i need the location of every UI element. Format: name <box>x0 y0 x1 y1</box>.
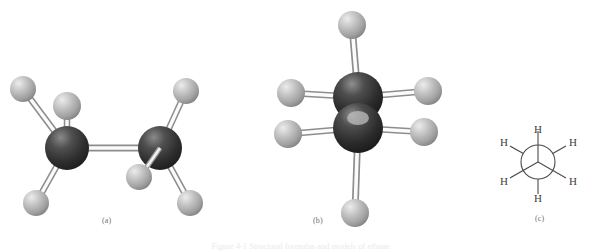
atom-hydrogen <box>274 120 302 148</box>
panel-c-svg: H H H H H H <box>488 118 601 223</box>
newman-h-lower-right: H <box>569 175 577 187</box>
newman-h-lower-left: H <box>500 175 508 187</box>
atom-hydrogen <box>53 92 81 120</box>
panel-b-svg <box>255 0 475 235</box>
carbon-overlap-highlight <box>347 111 369 125</box>
rear-bond-upper-left <box>510 146 523 154</box>
atom-hydrogen <box>277 79 305 107</box>
atom-hydrogen <box>414 77 442 105</box>
newman-h-upper-left: H <box>500 136 508 148</box>
front-bond-lower-right <box>538 162 566 178</box>
newman-h-upper-right: H <box>569 136 577 148</box>
figure-caption: Figure 4-1 Structural formulas and model… <box>0 241 601 251</box>
newman-h-top: H <box>534 123 542 135</box>
panel-a-sawhorse-model: (a) <box>0 0 240 235</box>
panel-a-label: (a) <box>102 216 111 225</box>
rear-bond-upper-right <box>553 146 566 154</box>
front-bond-lower-left <box>510 162 538 178</box>
panel-c-label: (c) <box>535 214 544 223</box>
atom-hydrogen <box>173 78 199 104</box>
panel-b-endon-model: (b) <box>255 0 475 235</box>
atom-hydrogen <box>10 76 36 102</box>
atom-hydrogen <box>338 11 366 39</box>
atom-carbon <box>333 103 383 153</box>
newman-front-bonds <box>510 131 566 178</box>
panel-c-newman-projection: H H H H H H (c) <box>488 118 601 223</box>
atom-hydrogen <box>23 190 49 216</box>
newman-h-bottom: H <box>534 192 542 204</box>
atom-hydrogen <box>126 164 152 190</box>
panel-b-label: (b) <box>313 216 323 225</box>
panel-a-svg <box>0 0 240 235</box>
atom-carbon <box>45 126 89 170</box>
atom-hydrogen <box>341 199 369 227</box>
atom-hydrogen <box>177 190 203 216</box>
atom-hydrogen <box>410 118 438 146</box>
